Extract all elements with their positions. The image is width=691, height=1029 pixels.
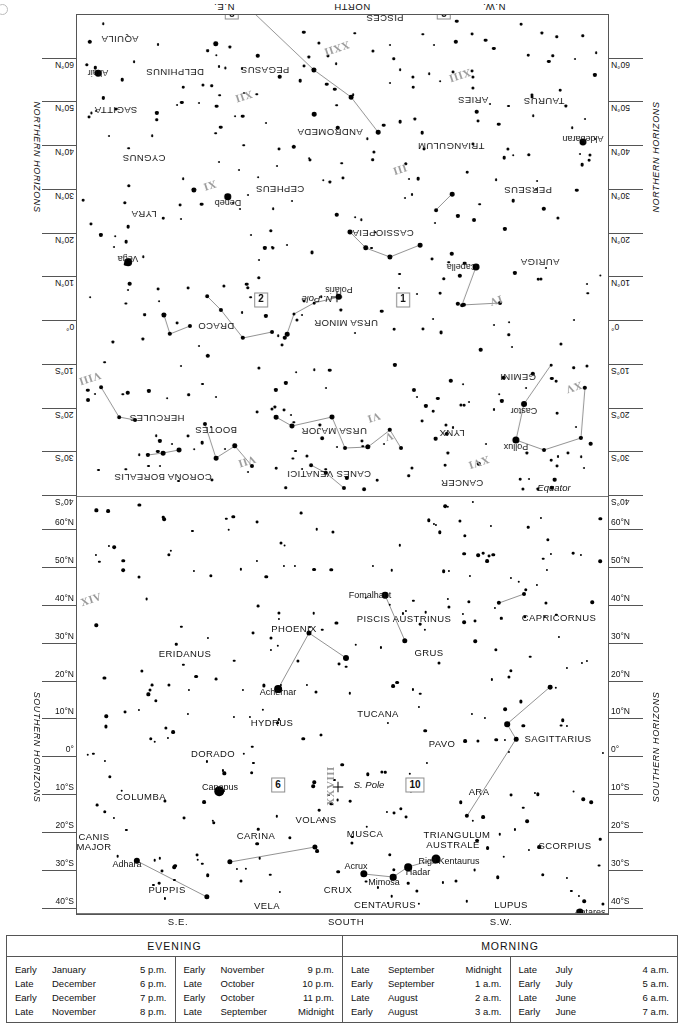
legend-when: Early: [184, 963, 221, 977]
star-point: [88, 40, 92, 44]
axis-tick: [42, 756, 76, 757]
star-point: [591, 600, 595, 604]
star-point: [138, 454, 141, 457]
axis-tick-label: 10°N: [55, 706, 74, 716]
map-reference-box-2[interactable]: 2: [254, 293, 268, 308]
star-point: [241, 336, 245, 340]
compass-label-south: SOUTH: [328, 916, 364, 927]
star-point: [462, 620, 466, 624]
map-reference-box-3[interactable]: 3: [437, 15, 451, 20]
star-point: [444, 505, 448, 509]
star-point: [265, 122, 267, 124]
axis-tick-label: 40°S: [55, 497, 74, 507]
star-point: [316, 528, 319, 531]
star-point: [272, 247, 275, 250]
star-point: [335, 213, 339, 217]
map-reference-box-1[interactable]: 1: [396, 293, 410, 308]
northern-star-layer: CANCERLYNXGEMINIURSA MAJORCANES VENATICI…: [77, 15, 608, 496]
star-point: [349, 799, 352, 802]
star-point: [325, 387, 327, 389]
star-point: [462, 404, 465, 407]
star-point: [201, 441, 204, 444]
star-point: [277, 334, 279, 336]
southern-horizons-panel: PISCIS AUSTRINUSCAPRICORNUSPHOENIXERIDAN…: [77, 496, 608, 915]
star-point: [160, 450, 165, 455]
legend-month: December: [52, 977, 115, 991]
legend-time: 11 p.m.: [282, 991, 334, 1005]
star-point: [354, 216, 356, 218]
axis-tick-label: 10°S: [55, 366, 74, 376]
star-point: [528, 478, 530, 480]
star-point: [547, 59, 551, 63]
legend-when: Late: [15, 1005, 52, 1019]
star-point: [581, 163, 584, 166]
star-point: [161, 870, 164, 873]
star-point: [284, 486, 287, 489]
star-point: [412, 85, 415, 88]
legend-row: EarlyAugust3 a.m.: [351, 1005, 502, 1019]
legend-when: Early: [15, 991, 52, 1005]
star-name-label: Rigil Kentaurus: [418, 856, 479, 866]
star-point: [503, 856, 506, 859]
compass-label-nw: N.W.: [483, 2, 506, 13]
legend-row: EarlyOctober11 p.m.: [184, 991, 335, 1005]
legend-when: Late: [519, 991, 556, 1005]
star-point: [360, 440, 363, 443]
star-point: [318, 809, 321, 812]
axis-tick-label: 60°N: [55, 60, 74, 70]
star-point: [447, 452, 450, 455]
star-point: [275, 466, 278, 469]
star-point: [121, 569, 125, 573]
star-point: [96, 804, 99, 807]
star-point: [224, 448, 226, 450]
star-point: [292, 145, 296, 149]
star-point: [420, 420, 423, 423]
star-point: [571, 126, 574, 129]
constellation-label: DORADO: [191, 748, 235, 759]
star-point: [312, 68, 317, 73]
star-point: [542, 448, 546, 452]
star-point: [147, 389, 151, 393]
legend-column-4: LateJuly4 a.m.EarlyJuly5 a.m.LateJune6 a…: [510, 957, 678, 1022]
star-point: [487, 555, 490, 558]
star-point: [213, 455, 218, 460]
constellation-label: DELPHINUS: [146, 68, 204, 79]
star-point: [474, 639, 478, 643]
legend-time: 4 a.m.: [617, 963, 669, 977]
axis-tick-label: 30°N: [55, 631, 74, 641]
axis-tick-label: 30°S: [611, 453, 630, 463]
star-point: [99, 233, 103, 237]
star-point: [301, 314, 303, 316]
axis-tick-label: 40°S: [611, 896, 630, 906]
legend-time: 9 p.m.: [282, 963, 334, 977]
star-point: [240, 880, 243, 883]
map-reference-box-8[interactable]: 8: [225, 15, 239, 20]
axis-tick: [609, 794, 643, 795]
axis-tick: [609, 832, 643, 833]
star-point: [437, 661, 440, 664]
star-point: [502, 156, 505, 159]
star-point: [526, 452, 529, 455]
axis-tick: [609, 495, 643, 496]
axis-tick: [42, 529, 76, 530]
star-point: [555, 411, 558, 414]
star-point: [283, 544, 286, 547]
axis-tick-label: 10°N: [611, 706, 630, 716]
star-point: [94, 393, 96, 395]
map-reference-box-6[interactable]: 6: [271, 778, 285, 793]
map-reference-box-10[interactable]: 10: [405, 778, 424, 793]
star-point: [475, 110, 478, 113]
axis-tick-label: 20°N: [55, 235, 74, 245]
star-point: [124, 468, 127, 471]
star-point: [421, 131, 424, 134]
star-point: [496, 875, 500, 879]
constellation-label: ANDROMEDA: [297, 128, 362, 139]
star-point: [436, 396, 440, 400]
star-point: [472, 218, 476, 222]
star-point: [290, 414, 292, 416]
star-point: [342, 486, 346, 490]
star-point: [398, 120, 401, 123]
star-point: [238, 169, 240, 171]
star-point: [218, 161, 220, 163]
constellation-label: PISCES: [366, 15, 403, 25]
